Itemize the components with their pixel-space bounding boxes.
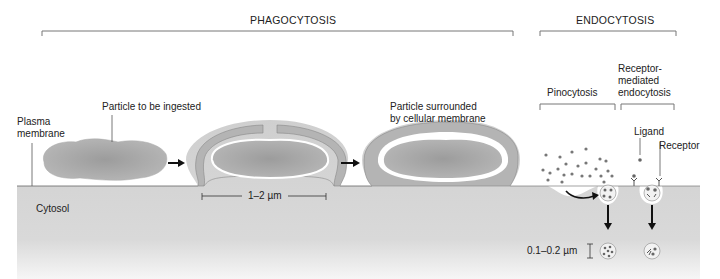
endocytosis-bracket [540, 31, 676, 36]
pinocytic-vesicle-forming [600, 185, 616, 201]
receptor-mediated-label-2: mediated [618, 75, 659, 87]
plasma-membrane-label-2: membrane [17, 128, 65, 140]
diagram-canvas [0, 0, 720, 279]
particle-surrounded-label-2: by cellular membrane [390, 113, 486, 125]
receptor-icon [631, 174, 662, 186]
phagocytosis-header: PHAGOCYTOSIS [250, 14, 336, 26]
coated-pit [644, 185, 660, 201]
pinocytic-vesicle [600, 243, 616, 259]
receptor-label: Receptor [659, 140, 700, 152]
particle-to-be-ingested-label: Particle to be ingested [102, 101, 201, 113]
phagosome-size-label: 1–2 µm [248, 190, 282, 202]
plasma-membrane-label-1: Plasma [17, 116, 50, 128]
ligand-label: Ligand [634, 126, 664, 138]
ligand-icon [638, 158, 642, 162]
phagocytosis-bracket [42, 31, 513, 36]
extracellular-fluid-dots [541, 147, 613, 183]
receptor-mediated-label-1: Receptor- [618, 63, 662, 75]
endocytosis-header: ENDOCYTOSIS [576, 14, 654, 26]
pinocytosis-bracket [540, 104, 615, 110]
receptor-mediated-bracket [621, 104, 674, 110]
receptor-vesicle [644, 243, 660, 259]
vesicle-size-label: 0.1–0.2 µm [527, 245, 577, 257]
receptor-mediated-label-3: endocytosis [618, 87, 671, 99]
cytosol-label: Cytosol [36, 203, 69, 215]
particle-surrounded-label-1: Particle surrounded [390, 101, 477, 113]
pinocytosis-label: Pinocytosis [547, 87, 598, 99]
particle-to-ingest [43, 139, 166, 180]
